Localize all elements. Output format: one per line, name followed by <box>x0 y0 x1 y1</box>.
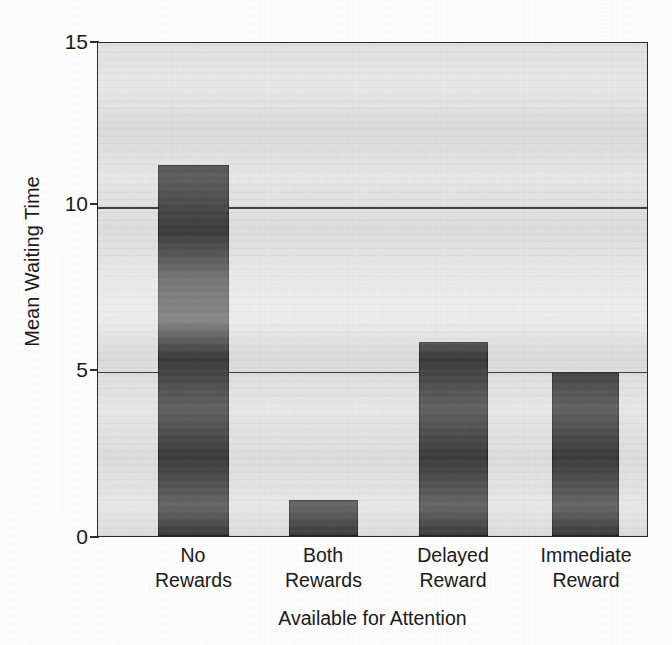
x-tick-line1: Immediate <box>540 544 631 566</box>
x-tick-line2: Rewards <box>285 568 361 593</box>
x-tick-line2: Reward <box>410 568 496 593</box>
y-axis-title: Mean Waiting Time <box>21 152 44 372</box>
bar-both-rewards[interactable] <box>289 500 358 536</box>
bar-no-rewards[interactable] <box>158 165 229 536</box>
bar-delayed-reward[interactable] <box>419 342 488 536</box>
x-tick-line1: Both <box>303 544 343 566</box>
bar-immediate-reward[interactable] <box>552 372 619 536</box>
plot-area <box>97 42 648 537</box>
y-axis-tick-group: 15 10 5 0 <box>0 42 88 537</box>
x-tick-label-both-rewards: Both Rewards <box>285 543 361 593</box>
y-tick-label-0: 0 <box>10 526 88 547</box>
x-tick-line2: Rewards <box>155 568 231 593</box>
x-tick-line1: Delayed <box>417 544 489 566</box>
y-tick-text-5: 5 <box>76 358 88 381</box>
x-tick-label-delayed-reward: Delayed Reward <box>410 543 496 593</box>
x-tick-line1: No <box>181 544 206 566</box>
x-tick-label-immediate-reward: Immediate Reward <box>537 543 635 593</box>
bar-chart-figure: 15 10 5 0 Mean Waiting Time No <box>0 0 672 645</box>
x-axis-tick-group: No Rewards Both Rewards Delayed Reward I… <box>97 543 648 601</box>
x-tick-line2: Reward <box>537 568 635 593</box>
y-tick-text-15: 15 <box>65 30 88 53</box>
y-tick-text-0: 0 <box>76 525 88 548</box>
y-tick-text-10: 10 <box>65 192 88 215</box>
x-tick-label-no-rewards: No Rewards <box>155 543 231 593</box>
x-axis-title: Available for Attention <box>97 607 648 630</box>
y-tick-label-15: 15 <box>10 31 88 52</box>
